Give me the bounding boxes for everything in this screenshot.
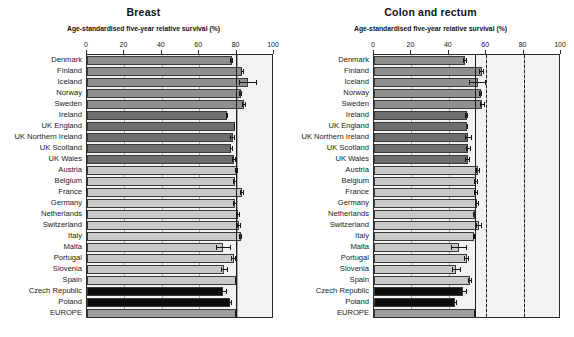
error-bar <box>479 67 484 76</box>
bar <box>87 243 223 252</box>
category-labels: DenmarkFinlandIcelandNorwaySwedenIreland… <box>4 54 82 318</box>
error-bar-cap <box>227 113 228 119</box>
category-label: Italy <box>291 232 369 240</box>
bar <box>87 276 236 285</box>
bar-row <box>374 298 559 307</box>
category-label: Finland <box>4 67 82 75</box>
error-bar-cap <box>231 300 232 306</box>
error-bar-cap <box>468 256 469 262</box>
error-bar-cap <box>452 267 453 273</box>
bar-row <box>87 133 272 142</box>
error-bar <box>237 210 240 219</box>
error-bar <box>239 89 242 98</box>
error-bar-cap <box>232 146 233 152</box>
bar-row <box>374 166 559 175</box>
bar <box>87 78 248 87</box>
error-bar <box>230 144 233 153</box>
category-label: Netherlands <box>4 210 82 218</box>
bar <box>87 199 235 208</box>
bar <box>87 298 230 307</box>
error-bar-cap <box>479 69 480 75</box>
category-label: UK Northern Ireland <box>4 133 82 141</box>
bar <box>87 67 242 76</box>
category-label: Malta <box>4 243 82 251</box>
error-bar <box>469 78 486 87</box>
error-bar-cap <box>471 278 472 284</box>
category-label: Germany <box>291 199 369 207</box>
bar <box>374 265 456 274</box>
error-bar <box>468 276 472 285</box>
bar <box>374 298 455 307</box>
bar-row <box>87 155 272 164</box>
error-bar-cap <box>232 157 233 163</box>
bar-row <box>87 232 272 241</box>
category-label: Sweden <box>291 100 369 108</box>
x-tick-label: 0 <box>371 41 375 48</box>
bar-row <box>374 254 559 263</box>
error-bar-cap <box>464 256 465 262</box>
panel-title: Breast <box>0 6 287 18</box>
error-bar <box>466 144 470 153</box>
bar-row <box>87 309 272 317</box>
category-label: Czech Republic <box>4 287 82 295</box>
bar <box>374 122 467 131</box>
bar-row <box>374 221 559 230</box>
category-label: Ireland <box>291 111 369 119</box>
error-bar-cap <box>451 245 452 251</box>
category-label: Slovenia <box>291 265 369 273</box>
bar-row <box>374 78 559 87</box>
error-bar-cap <box>459 289 460 295</box>
bar <box>374 309 475 317</box>
x-tick-label: 60 <box>194 41 202 48</box>
bar <box>374 67 482 76</box>
error-bar-cap <box>231 256 232 262</box>
bar-row <box>374 232 559 241</box>
error-bar <box>464 254 469 263</box>
bar-row <box>87 111 272 120</box>
bar-row <box>87 122 272 131</box>
bar-row <box>87 199 272 208</box>
error-bar <box>463 56 467 65</box>
category-label: UK Wales <box>291 155 369 163</box>
error-bar-cap <box>466 289 467 295</box>
category-label: Ireland <box>4 111 82 119</box>
bar-row <box>87 210 272 219</box>
bar-row <box>374 199 559 208</box>
x-tick-label: 20 <box>119 41 127 48</box>
error-bar-cap <box>465 113 466 119</box>
bar <box>374 100 482 109</box>
bar <box>374 89 481 98</box>
error-bar-line <box>216 247 231 248</box>
error-bar-cap <box>233 201 234 207</box>
bar-row <box>87 254 272 263</box>
error-bar-cap <box>233 179 234 185</box>
error-bar-cap <box>232 58 233 64</box>
bar-row <box>87 56 272 65</box>
category-label: Norway <box>291 89 369 97</box>
reference-line-solid <box>236 55 237 317</box>
category-label: Denmark <box>291 56 369 64</box>
error-bar-cap <box>237 223 238 229</box>
category-label: Switzerland <box>4 221 82 229</box>
category-label: Sweden <box>4 100 82 108</box>
error-bar <box>237 221 242 230</box>
category-label: Denmark <box>4 56 82 64</box>
bar <box>374 78 478 87</box>
category-label: France <box>4 188 82 196</box>
bar-row <box>87 298 272 307</box>
error-bar <box>239 78 258 87</box>
bar-row <box>87 221 272 230</box>
error-bar <box>452 265 461 274</box>
error-bar-cap <box>469 80 470 86</box>
error-bar <box>459 287 466 296</box>
error-bar-cap <box>484 102 485 108</box>
error-bar-cap <box>479 91 480 97</box>
bar <box>374 210 475 219</box>
bar-row <box>374 188 559 197</box>
category-label: UK Northern Ireland <box>291 133 369 141</box>
bar <box>374 111 467 120</box>
x-tick-label: 80 <box>232 41 240 48</box>
x-tick-mark <box>560 50 561 54</box>
error-bar <box>239 232 241 241</box>
error-bar-line <box>451 247 468 248</box>
